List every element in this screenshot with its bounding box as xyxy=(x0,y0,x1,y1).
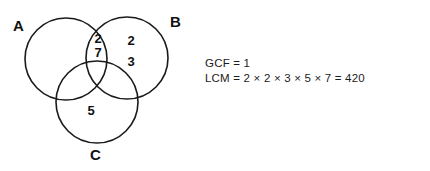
region-value-b-only-second: 3 xyxy=(125,55,137,68)
lcm-equation: LCM = 2 × 2 × 3 × 5 × 7 = 420 xyxy=(205,71,365,86)
equations-block: GCF = 1 LCM = 2 × 2 × 3 × 5 × 7 = 420 xyxy=(205,56,365,86)
set-label-c: C xyxy=(90,147,101,162)
region-value-b-only-first: 2 xyxy=(125,34,137,47)
gcf-equation: GCF = 1 xyxy=(205,56,365,71)
region-value-c-only-first: 5 xyxy=(85,104,97,117)
circle-set-c xyxy=(56,61,138,143)
venn-diagram-page: A B C 2 7 2 3 5 GCF = 1 LCM = 2 × 2 × 3 … xyxy=(0,0,430,171)
region-value-a-intersect-b-first: 2 xyxy=(92,32,104,45)
region-value-a-intersect-b-second: 7 xyxy=(92,46,104,59)
venn-diagram-figure: A B C 2 7 2 3 5 xyxy=(0,0,200,171)
set-label-a: A xyxy=(13,18,24,33)
set-label-b: B xyxy=(170,14,181,29)
